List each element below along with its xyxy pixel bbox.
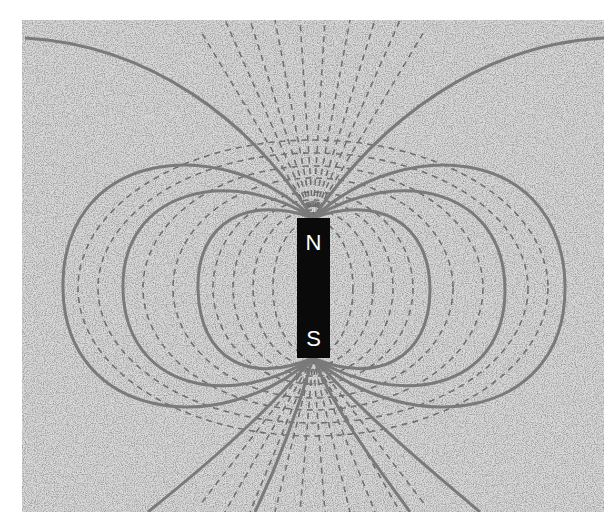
south-pole-label: S [306, 326, 321, 351]
north-pole-label: N [306, 230, 322, 255]
magnetic-field-figure: N S [0, 0, 616, 523]
bar-magnet: N S [297, 218, 330, 358]
